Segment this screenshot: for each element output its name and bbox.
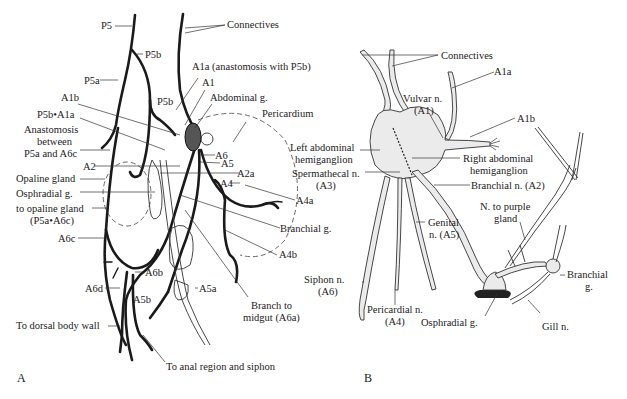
label-anastomosis-3: P5a and A6c xyxy=(24,148,77,159)
label-osphradial-g-a: Osphradial g. xyxy=(16,188,73,199)
nerve-a1a-b xyxy=(445,72,457,140)
label-genital-2: n. (A5) xyxy=(429,229,460,241)
label-gill-n: Gill n. xyxy=(542,321,569,332)
label-to-opaline-1: to opaline gland xyxy=(16,203,84,214)
label-p5b-mid: P5b xyxy=(157,96,173,107)
label-osphradial-g-b: Osphradial g. xyxy=(421,317,478,328)
label-a1: A1 xyxy=(202,77,215,88)
label-left-hemi-2: hemiganglion xyxy=(295,154,353,165)
connective-left xyxy=(360,50,391,118)
upper-fibres-2 xyxy=(572,132,583,180)
label-a1b: A1b xyxy=(61,92,79,103)
label-branch-midgut-1: Branch to xyxy=(251,300,292,311)
label-purple-2: gland xyxy=(494,213,518,224)
osphradial-gland xyxy=(148,160,162,219)
label-a4: A4 xyxy=(220,178,234,189)
label-a1a-b: A1a xyxy=(494,66,512,77)
label-connectives-b: Connectives xyxy=(441,50,493,61)
branchial-up-nerve xyxy=(553,225,566,262)
nerve-gill xyxy=(510,272,550,304)
label-a1a: A1a (anastomosis with P5b) xyxy=(192,61,311,73)
label-p5b: P5b xyxy=(145,49,161,60)
label-to-opaline-2: (P5a•A6c) xyxy=(30,215,74,227)
label-branchial-g-2: g. xyxy=(585,281,593,292)
label-opaline-gland: Opaline gland xyxy=(16,173,76,184)
nerve-a5b xyxy=(150,292,168,318)
label-siphon-1: Siphon n. xyxy=(304,274,344,285)
label-a4b: A4b xyxy=(279,249,297,260)
label-anastomosis-2: between xyxy=(37,136,73,147)
label-right-hemi-2: hemiganglion xyxy=(470,165,528,176)
label-a2: A2 xyxy=(83,161,96,172)
label-p5b-a1a: P5b•A1a xyxy=(37,109,75,120)
label-a2a: A2a xyxy=(237,168,255,179)
label-pericardial-1: Pericardial n. xyxy=(367,304,423,315)
nerve-pericardial xyxy=(395,178,402,290)
upper-fibres-1 xyxy=(535,127,578,180)
label-branchial-g-1: Branchial xyxy=(567,269,608,280)
panel-letter-b: B xyxy=(364,371,372,385)
branchial-ganglion-b xyxy=(546,259,560,273)
label-genital-1: Genital xyxy=(428,217,459,228)
abdominal-ganglion xyxy=(185,123,201,151)
label-a5a: A5a xyxy=(199,283,217,294)
label-branchial-g-a: Branchial g. xyxy=(280,223,331,234)
label-anastomosis-1: Anastomosis xyxy=(24,124,78,135)
label-abdominal-g: Abdominal g. xyxy=(210,92,268,103)
label-a6b: A6b xyxy=(145,267,163,278)
label-a5b: A5b xyxy=(133,294,151,305)
label-to-anal: To anal region and siphon xyxy=(166,361,276,372)
label-spermathecal-2: (A3) xyxy=(316,180,336,192)
nerve-p5b-lower xyxy=(130,100,150,177)
label-a1b-b: A1b xyxy=(517,113,535,124)
nerve-a6c xyxy=(106,230,158,268)
label-pericardial-2: (A4) xyxy=(385,316,405,328)
label-p5: P5 xyxy=(101,20,112,31)
label-p5a: P5a xyxy=(84,75,100,86)
panel-a-labels: P5 Connectives P5b P5a A1a (anastomosis … xyxy=(16,19,331,385)
label-connectives-a: Connectives xyxy=(227,19,279,30)
label-right-hemi-1: Right abdominal xyxy=(463,153,533,164)
label-siphon-2: (A6) xyxy=(318,286,338,298)
label-purple-1: N. to purple xyxy=(480,201,531,212)
ganglion-loop xyxy=(201,133,213,145)
label-a6d: A6d xyxy=(85,283,104,294)
panel-letter-a: A xyxy=(17,371,26,385)
osphradial-shadow xyxy=(474,290,510,298)
label-a4a: A4a xyxy=(296,195,314,206)
pericardium-outline xyxy=(198,113,298,256)
nerve-a6b xyxy=(133,275,152,350)
panel-b-labels: Connectives A1a Vulvar n. (A1) A1b Left … xyxy=(290,50,608,385)
label-a6c: A6c xyxy=(58,233,76,244)
gut-tube-2 xyxy=(166,160,210,345)
label-branchial-n: Branchial n. (A2) xyxy=(471,180,545,192)
nerve-a4 xyxy=(201,150,278,208)
label-to-dorsal: To dorsal body wall xyxy=(16,320,100,331)
nerve-siphon xyxy=(359,176,390,320)
label-branch-midgut-2: midgut (A6a) xyxy=(243,312,300,324)
label-left-hemi-1: Left abdominal xyxy=(290,142,355,153)
label-vulvar-1: Vulvar n. xyxy=(403,93,442,104)
nerve-to-branchial-g xyxy=(495,262,548,278)
label-a5: A5 xyxy=(221,158,234,169)
label-vulvar-2: (A1) xyxy=(414,105,434,117)
label-pericardium: Pericardium xyxy=(262,108,313,119)
label-spermathecal-1: Spermathecal n. xyxy=(292,168,360,179)
nerve-a1b-fan xyxy=(490,138,500,150)
nervous-system-figure: P5 Connectives P5b P5a A1a (anastomosis … xyxy=(0,0,627,399)
